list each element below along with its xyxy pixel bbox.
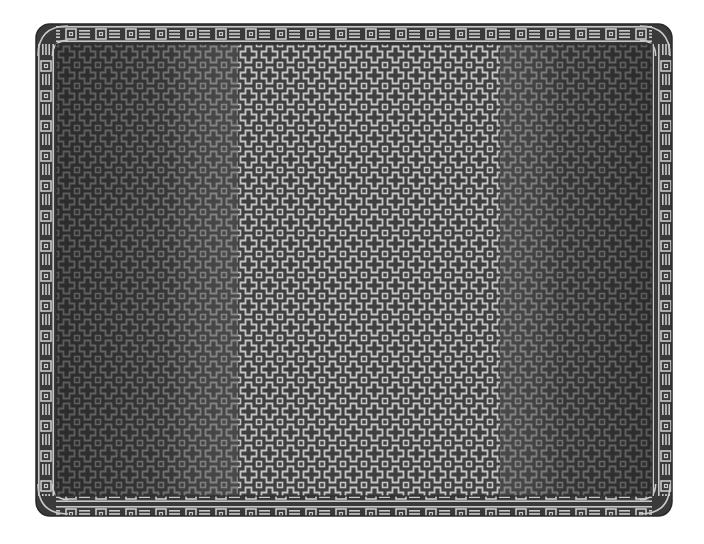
- panel-right-shade: [500, 44, 652, 496]
- border-top: [56, 24, 652, 44]
- blanket-photo: Mosaic blanket with patterned border: [0, 0, 704, 544]
- border-left: [36, 44, 56, 496]
- panel-center: [238, 44, 500, 496]
- border-right: [652, 44, 672, 496]
- panel-left-shade: [56, 44, 238, 496]
- border-bottom: [56, 496, 652, 516]
- blanket: [0, 0, 704, 544]
